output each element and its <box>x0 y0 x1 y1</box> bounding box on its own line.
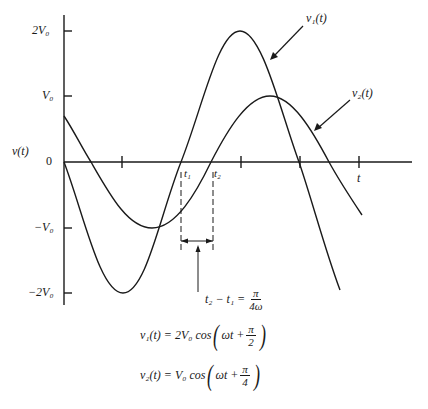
difference-num: π <box>251 287 261 300</box>
x-axis-label: t <box>357 171 360 186</box>
left-paren: ( <box>207 360 213 390</box>
equation-v1-num: π <box>246 323 256 336</box>
equation-v2-den: 4 <box>242 376 248 388</box>
equation-v2: v₂(t) = V₀ cos ( ωt + π 4 ) <box>140 360 262 390</box>
right-paren: ) <box>254 360 260 390</box>
equation-v2-num: π <box>240 363 250 376</box>
t2-label: t₂ <box>214 167 221 179</box>
v2-label: v₂(t) <box>352 86 373 101</box>
left-paren: ( <box>213 320 219 350</box>
difference-lhs: t₂ − t₁ = <box>205 292 245 307</box>
difference-fraction: π 4ω <box>249 287 262 312</box>
equation-v2-inner: ωt + <box>215 368 238 383</box>
difference-annotation: t₂ − t₁ = π 4ω <box>205 287 265 312</box>
tick-label-2v0: 2V₀ <box>32 23 50 38</box>
right-paren: ) <box>260 320 266 350</box>
equation-v1-inner: ωt + <box>221 328 244 343</box>
v2-label-arrow <box>318 100 350 128</box>
v1-label: v₁(t) <box>306 11 327 26</box>
equation-v2-lhs: v₂(t) = V₀ cos <box>140 368 205 383</box>
equation-v2-fraction: π 4 <box>240 363 250 388</box>
difference-den: 4ω <box>249 300 262 312</box>
equation-v1: v₁(t) = 2V₀ cos ( ωt + π 2 ) <box>140 320 268 350</box>
equation-v1-fraction: π 2 <box>246 323 256 348</box>
t1-label: t₁ <box>184 167 191 179</box>
y-axis-label: v(t) <box>12 144 29 159</box>
tick-label-zero: 0 <box>46 154 52 169</box>
tick-label-neg-v0: −V₀ <box>34 220 54 235</box>
v1-label-arrow <box>274 26 303 56</box>
tick-label-v0: V₀ <box>42 88 54 103</box>
tick-label-neg-2v0: −2V₀ <box>28 285 54 300</box>
equation-v1-den: 2 <box>248 336 254 348</box>
equation-v1-lhs: v₁(t) = 2V₀ cos <box>140 328 211 343</box>
